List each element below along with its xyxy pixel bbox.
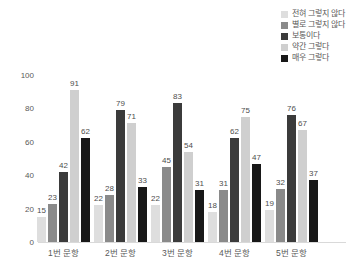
y-tick-label: 60 xyxy=(0,138,34,147)
bar: 19 xyxy=(265,210,274,242)
x-axis-category-labels: 1번 문항2번 문항3번 문항4번 문항5번 문항 xyxy=(35,248,320,258)
bar-group-5: 1932766737 xyxy=(263,75,320,242)
legend-item-3: 약간 그렇다 xyxy=(281,43,345,51)
bar: 28 xyxy=(105,195,114,242)
bar: 45 xyxy=(162,167,171,242)
bar: 47 xyxy=(252,164,261,242)
bar-group-4: 1831627547 xyxy=(206,75,263,242)
bar: 18 xyxy=(208,212,217,242)
bar-value-label: 37 xyxy=(309,170,318,178)
bar: 54 xyxy=(184,152,193,242)
legend-swatch-icon xyxy=(281,33,288,40)
legend-label: 별로 그렇지 않다 xyxy=(292,21,345,29)
bar-value-label: 28 xyxy=(105,185,114,193)
bar: 33 xyxy=(138,187,147,242)
bar-value-label: 54 xyxy=(184,142,193,150)
legend-item-0: 전혀 그렇지 않다 xyxy=(281,10,345,18)
bar-value-label: 23 xyxy=(48,194,57,202)
y-axis-tick-labels: 020406080100 xyxy=(0,75,34,242)
bar-value-label: 83 xyxy=(173,93,182,101)
legend-swatch-icon xyxy=(281,11,288,18)
bar-value-label: 31 xyxy=(195,180,204,188)
bar-value-label: 62 xyxy=(81,128,90,136)
bar: 31 xyxy=(219,190,228,242)
y-tick-label: 0 xyxy=(0,238,34,247)
bar: 62 xyxy=(81,138,90,242)
x-category-label-4: 4번 문항 xyxy=(206,248,263,258)
bar-group-3: 2245835431 xyxy=(149,75,206,242)
bar-chart: 전혀 그렇지 않다별로 그렇지 않다보통이다약간 그렇다매우 그렇다 02040… xyxy=(0,0,350,274)
bar: 76 xyxy=(287,115,296,242)
x-category-label-5: 5번 문항 xyxy=(263,248,320,258)
bar: 62 xyxy=(230,138,239,242)
y-tick-label: 20 xyxy=(0,205,34,214)
bar-value-label: 42 xyxy=(59,162,68,170)
bar-value-label: 31 xyxy=(219,180,228,188)
bar-value-label: 67 xyxy=(298,120,307,128)
x-category-label-2: 2번 문항 xyxy=(92,248,149,258)
y-tick-label: 80 xyxy=(0,104,34,113)
bar: 15 xyxy=(37,217,46,242)
plot-area: 1523429162222879713322458354311831627547… xyxy=(35,75,320,242)
bar-value-label: 32 xyxy=(276,179,285,187)
legend-swatch-icon xyxy=(281,44,288,51)
chart-legend: 전혀 그렇지 않다별로 그렇지 않다보통이다약간 그렇다매우 그렇다 xyxy=(281,10,345,62)
legend-label: 매우 그렇다 xyxy=(292,54,329,62)
bar-value-label: 22 xyxy=(94,195,103,203)
legend-label: 보통이다 xyxy=(292,32,320,40)
bar: 23 xyxy=(48,204,57,242)
bar-value-label: 71 xyxy=(127,113,136,121)
bar: 83 xyxy=(173,103,182,242)
legend-item-2: 보통이다 xyxy=(281,32,345,40)
bar: 91 xyxy=(70,90,79,242)
bar-value-label: 15 xyxy=(37,207,46,215)
legend-label: 약간 그렇다 xyxy=(292,43,329,51)
legend-swatch-icon xyxy=(281,22,288,29)
bar: 37 xyxy=(309,180,318,242)
x-category-label-1: 1번 문항 xyxy=(35,248,92,258)
bar: 22 xyxy=(94,205,103,242)
legend-swatch-icon xyxy=(281,55,288,62)
bar-value-label: 45 xyxy=(162,157,171,165)
y-tick-label: 100 xyxy=(0,71,34,80)
bar-value-label: 47 xyxy=(252,154,261,162)
bar-value-label: 75 xyxy=(241,107,250,115)
bar-value-label: 91 xyxy=(70,80,79,88)
bar-value-label: 19 xyxy=(265,200,274,208)
bar-group-2: 2228797133 xyxy=(92,75,149,242)
bar-value-label: 33 xyxy=(138,177,147,185)
legend-item-4: 매우 그렇다 xyxy=(281,54,345,62)
bar: 79 xyxy=(116,110,125,242)
bar: 67 xyxy=(298,130,307,242)
legend-label: 전혀 그렇지 않다 xyxy=(292,10,345,18)
bar-value-label: 22 xyxy=(151,195,160,203)
bar-value-label: 62 xyxy=(230,128,239,136)
bar-value-label: 76 xyxy=(287,105,296,113)
bar-value-label: 79 xyxy=(116,100,125,108)
legend-item-1: 별로 그렇지 않다 xyxy=(281,21,345,29)
x-axis-line xyxy=(38,242,346,243)
bar: 32 xyxy=(276,189,285,242)
y-tick-label: 40 xyxy=(0,171,34,180)
bar: 75 xyxy=(241,117,250,242)
x-category-label-3: 3번 문항 xyxy=(149,248,206,258)
bar: 42 xyxy=(59,172,68,242)
bar: 71 xyxy=(127,123,136,242)
bar-group-1: 1523429162 xyxy=(35,75,92,242)
bar-value-label: 18 xyxy=(208,202,217,210)
bar: 22 xyxy=(151,205,160,242)
bar: 31 xyxy=(195,190,204,242)
